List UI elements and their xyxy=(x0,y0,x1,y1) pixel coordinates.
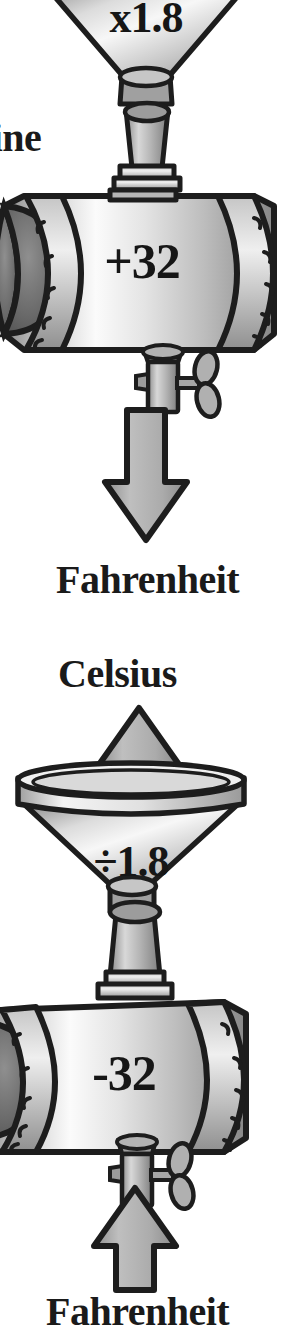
output-label-celsius: Celsius xyxy=(58,650,177,697)
funnel-divide: ÷1.8 xyxy=(14,760,248,918)
funnel-neck-pipe-1 xyxy=(112,102,182,192)
cylinder-operation-add: +32 xyxy=(0,232,291,290)
output-label-fahrenheit-1: Fahrenheit xyxy=(56,556,239,603)
input-arrow-up-2 xyxy=(90,1184,180,1294)
funnel-multiply: x1.8 xyxy=(38,0,254,114)
diagram-canvas: x1.8 xyxy=(0,0,291,1332)
funnel-operation-multiply: x1.8 xyxy=(38,0,254,43)
cylinder-add-32: +32 xyxy=(0,182,291,362)
funnel-operation-divide: ÷1.8 xyxy=(14,836,248,887)
funnel-neck-pipe-2 xyxy=(96,898,176,1002)
cylinder-operation-subtract: -32 xyxy=(0,1044,274,1102)
input-label-fahrenheit-2: Fahrenheit xyxy=(46,1288,229,1332)
output-arrow-down-1 xyxy=(101,406,191,546)
machine-caption-cut: hine xyxy=(0,114,41,161)
